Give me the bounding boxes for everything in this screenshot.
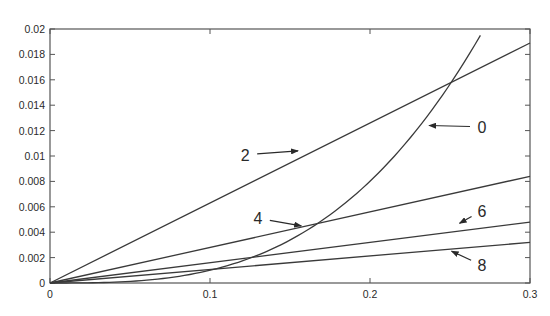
series-line-2: [50, 43, 530, 283]
series-line-8: [50, 242, 530, 283]
line-chart: 00.0020.0040.0060.0080.010.0120.0140.016…: [0, 0, 550, 316]
annotation-label-2: 2: [241, 147, 250, 164]
y-tick-label: 0.016: [19, 74, 45, 86]
plot-frame: [50, 29, 530, 283]
annotation-label-4: 4: [254, 210, 263, 227]
y-tick-label: 0.02: [25, 23, 46, 35]
annotation-label-8: 8: [478, 257, 487, 274]
y-tick-label: 0: [39, 277, 45, 289]
series-line-4: [50, 176, 530, 283]
annotation-label-0: 0: [478, 119, 487, 136]
axes: 00.0020.0040.0060.0080.010.0120.0140.016…: [19, 23, 538, 300]
arrow-icon: [429, 126, 470, 127]
arrow-icon: [257, 151, 298, 154]
y-tick-label: 0.004: [19, 226, 45, 238]
annotation-label-6: 6: [478, 203, 487, 220]
y-tick-label: 0.01: [25, 150, 46, 162]
y-tick-label: 0.012: [19, 125, 45, 137]
arrow-icon: [452, 251, 471, 260]
y-tick-label: 0.008: [19, 175, 45, 187]
plot-area: 00.0020.0040.0060.0080.010.0120.0140.016…: [0, 0, 550, 316]
series-line-6: [50, 222, 530, 283]
arrow-icon: [460, 217, 472, 224]
x-tick-label: 0.2: [363, 288, 378, 300]
series-line-0: [50, 35, 480, 283]
y-tick-label: 0.002: [19, 252, 45, 264]
y-tick-label: 0.018: [19, 48, 45, 60]
annotations: 02468: [241, 119, 487, 274]
y-tick-label: 0.006: [19, 201, 45, 213]
series-lines: [50, 35, 530, 283]
x-tick-label: 0.1: [203, 288, 218, 300]
x-tick-label: 0: [47, 288, 53, 300]
y-tick-label: 0.014: [19, 99, 45, 111]
arrow-icon: [270, 220, 301, 226]
x-tick-label: 0.3: [523, 288, 538, 300]
